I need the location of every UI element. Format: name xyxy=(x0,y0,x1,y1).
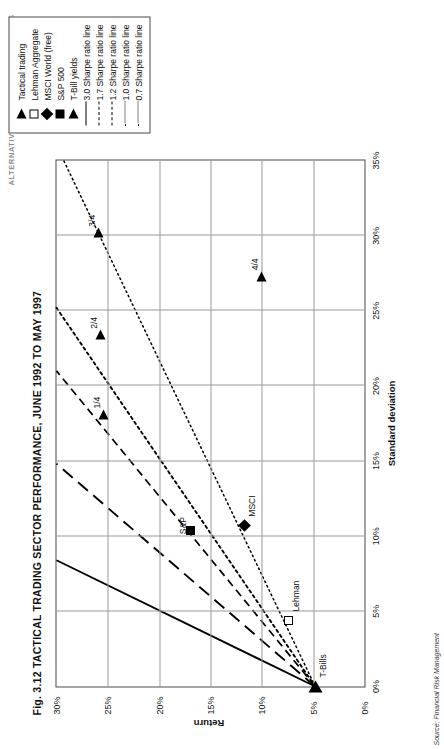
data-point-label-s-p: S&P xyxy=(177,517,187,534)
legend-line-sample xyxy=(124,101,125,125)
legend-line-sample xyxy=(111,101,112,125)
gridline-horizontal xyxy=(210,160,211,686)
x-tick-label: 0% xyxy=(370,679,380,692)
figure-page: ALTERNATIVE INVESTMENT STRATEGIES Fig. 3… xyxy=(0,0,444,749)
data-point-label-q1: 1/4 xyxy=(91,396,101,408)
y-tick-label: 10% xyxy=(256,696,266,714)
x-tick-label: 30% xyxy=(370,226,380,244)
gridline-horizontal xyxy=(159,160,160,686)
data-point-label-msci: MSCI xyxy=(246,495,256,516)
legend-key-line-solid-icon xyxy=(85,100,86,126)
x-tick-label: 5% xyxy=(370,604,380,617)
rotated-page-wrapper: ALTERNATIVE INVESTMENT STRATEGIES Fig. 3… xyxy=(0,0,444,749)
legend-key-line-dash-long-icon xyxy=(98,100,99,126)
gridline-horizontal xyxy=(313,160,314,686)
y-tick-label: 15% xyxy=(205,696,215,714)
y-tick-label: 30% xyxy=(51,696,61,714)
legend-item-label: Lehman Aggregate xyxy=(29,28,39,100)
legend-key-line-dash-medium-icon xyxy=(111,100,112,126)
legend-key-triangle-filled-icon xyxy=(16,100,26,126)
data-point-label-q4: 4/4 xyxy=(249,258,259,270)
sharpe-line-3 xyxy=(56,560,315,686)
legend-key-diamond-filled-icon xyxy=(42,100,51,126)
legend-key-line-dotted-icon xyxy=(124,100,125,126)
legend-item-label: MSCI World (free) xyxy=(42,32,52,100)
legend-item-label: S&P 500 xyxy=(55,67,65,100)
sharpe-line-0.7 xyxy=(63,160,315,686)
legend-item-label: 1.0 Sharpe ratio line xyxy=(120,24,130,100)
chart-legend: Tactical tradingLehman AggregateMSCI Wor… xyxy=(8,16,150,133)
x-tick-label: 15% xyxy=(370,452,380,470)
gridline-horizontal xyxy=(107,160,108,686)
legend-item: MSCI World (free) xyxy=(40,24,53,126)
legend-marker-sample xyxy=(40,107,53,120)
legend-marker-sample xyxy=(29,109,38,118)
legend-marker-sample xyxy=(68,108,78,118)
legend-item-label: 3.0 Sharpe ratio line xyxy=(81,24,91,100)
legend-item: Tactical trading xyxy=(14,24,27,126)
data-point-label-q3: 3/4 xyxy=(86,214,96,226)
x-tick-label: 20% xyxy=(370,376,380,394)
y-tick-label: 5% xyxy=(308,701,318,714)
data-point-marker-q3 xyxy=(93,227,103,237)
legend-item: 1.0 Sharpe ratio line xyxy=(118,24,131,126)
data-point-label-lehman: Lehman xyxy=(290,580,300,611)
legend-item: 1.2 Sharpe ratio line xyxy=(105,24,118,126)
legend-line-sample xyxy=(85,101,86,125)
legend-item-label: T-Bill yields xyxy=(68,57,78,100)
legend-item-label: Tactical trading xyxy=(16,43,26,100)
legend-marker-sample xyxy=(16,108,26,118)
y-tick-label: 25% xyxy=(102,696,112,714)
legend-line-sample xyxy=(137,101,138,125)
data-point-label-q2: 2/4 xyxy=(88,317,98,329)
legend-key-triangle-filled-icon xyxy=(68,100,78,126)
legend-item: Lehman Aggregate xyxy=(27,24,40,126)
data-point-marker-q2 xyxy=(95,329,105,339)
legend-key-line-dotted-fine-icon xyxy=(137,100,138,126)
legend-key-square-open-icon xyxy=(29,100,38,126)
x-tick-label: 10% xyxy=(370,527,380,545)
legend-item-label: 1.7 Sharpe ratio line xyxy=(94,24,104,100)
y-tick-label: 0% xyxy=(359,701,369,714)
x-axis-title: Standard deviation xyxy=(385,380,396,466)
legend-line-sample xyxy=(98,101,99,125)
y-axis-title: Return xyxy=(179,718,239,729)
legend-key-square-filled-icon xyxy=(55,100,64,126)
y-tick-label: 20% xyxy=(154,696,164,714)
legend-item-label: 0.7 Sharpe ratio line xyxy=(133,24,143,100)
legend-item: 0.7 Sharpe ratio line xyxy=(131,24,144,126)
legend-marker-sample xyxy=(55,109,64,118)
x-tick-label: 35% xyxy=(370,151,380,169)
data-point-marker-t-bills xyxy=(308,680,322,692)
gridline-horizontal xyxy=(261,160,262,686)
x-tick-label: 25% xyxy=(370,301,380,319)
legend-item: 1.7 Sharpe ratio line xyxy=(92,24,105,126)
legend-item-label: 1.2 Sharpe ratio line xyxy=(107,24,117,100)
data-point-marker-q1 xyxy=(98,409,108,419)
legend-item: 3.0 Sharpe ratio line xyxy=(79,24,92,126)
figure-title: Fig. 3.12 TACTICAL TRADING SECTOR PERFOR… xyxy=(30,290,42,715)
chart-plot-area: T-BillsLehmanMSCIS&P1/42/43/44/4 xyxy=(55,159,365,687)
data-point-marker-lehman xyxy=(284,615,293,624)
figure-source-note: Source: Financial Risk Management xyxy=(432,633,439,745)
legend-item: T-Bill yields xyxy=(66,24,79,126)
legend-item: S&P 500 xyxy=(53,24,66,126)
data-point-marker-q4 xyxy=(256,271,266,281)
data-point-label-t-bills: T-Bills xyxy=(317,654,327,677)
